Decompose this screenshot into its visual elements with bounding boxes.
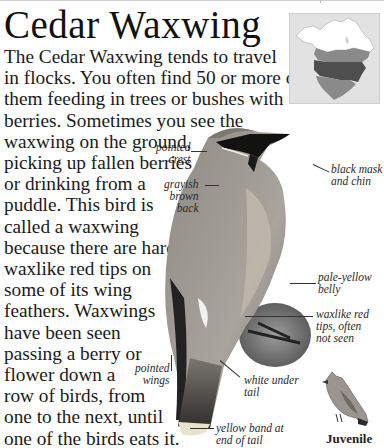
leader-line	[171, 355, 172, 371]
label-white-under-tail: white under tail	[244, 374, 299, 398]
label-black-mask: black mask and chin	[331, 163, 382, 187]
body-line: in flocks. You often find 50 or more of	[4, 67, 304, 88]
label-pale-belly: pale-yellow belly	[318, 271, 372, 295]
label-yellow-band: yellow band at end of tail	[216, 422, 284, 446]
juvenile-label: Juvenile	[326, 431, 372, 447]
leader-line	[191, 151, 207, 152]
leader-line	[205, 185, 219, 186]
juvenile-waxwing-icon	[318, 368, 372, 430]
page-title: Cedar Waxwing	[4, 4, 261, 46]
range-map	[289, 13, 380, 104]
label-waxlike-tips: waxlike red tips, often not seen	[316, 308, 369, 344]
leader-line	[245, 316, 313, 317]
north-america-map-icon	[290, 14, 379, 103]
leader-line	[290, 283, 316, 284]
label-pointed-crest: pointed crest	[156, 141, 191, 165]
body-line: them feeding in trees or bushes with	[4, 88, 304, 109]
leader-line	[190, 428, 214, 429]
body-line: The Cedar Waxwing tends to travel	[4, 46, 304, 67]
rule-tick	[320, 0, 321, 3]
label-grayish-back: grayish brown back	[164, 178, 199, 214]
label-pointed-wings: pointed wings	[135, 362, 170, 386]
